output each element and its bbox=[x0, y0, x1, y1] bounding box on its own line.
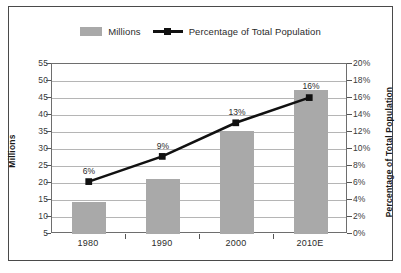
y-tick-label-right: 0% bbox=[353, 228, 383, 238]
y-tick-label-left: 30 bbox=[22, 143, 48, 153]
y-tick-label-left: 50 bbox=[22, 75, 48, 85]
y-tick-label-right: 18% bbox=[353, 75, 383, 85]
line-marker bbox=[306, 94, 313, 101]
x-tick-mark bbox=[125, 234, 126, 239]
y-tick-label-right: 12% bbox=[353, 126, 383, 136]
data-label: 13% bbox=[228, 107, 245, 117]
y-tick-label-right: 16% bbox=[353, 92, 383, 102]
y-tick-label-right: 8% bbox=[353, 160, 383, 170]
y-tick-mark-right bbox=[347, 63, 352, 64]
y-tick-label-left: 45 bbox=[22, 92, 48, 102]
y-tick-label-left: 5 bbox=[22, 228, 48, 238]
left-axis-title: Millions bbox=[7, 116, 17, 186]
data-label: 16% bbox=[302, 81, 319, 91]
y-tick-label-left: 40 bbox=[22, 109, 48, 119]
y-tick-label-right: 6% bbox=[353, 177, 383, 187]
x-tick-mark bbox=[273, 234, 274, 239]
y-tick-label-right: 4% bbox=[353, 194, 383, 204]
x-tick-mark bbox=[199, 234, 200, 239]
y-tick-label-left: 25 bbox=[22, 160, 48, 170]
chart-figure: Millions Percentage of Total Population … bbox=[0, 0, 401, 273]
y-tick-mark-right bbox=[347, 97, 352, 98]
y-tick-label-left: 55 bbox=[22, 58, 48, 68]
line-marker bbox=[159, 153, 166, 160]
right-axis-title: Percentage of Total Population bbox=[384, 77, 394, 227]
y-tick-label-left: 35 bbox=[22, 126, 48, 136]
y-tick-label-left: 20 bbox=[22, 177, 48, 187]
data-label: 6% bbox=[83, 166, 95, 176]
y-tick-mark-right bbox=[347, 216, 352, 217]
y-tick-label-right: 2% bbox=[353, 211, 383, 221]
y-tick-mark-right bbox=[347, 148, 352, 149]
y-tick-mark-right bbox=[347, 199, 352, 200]
y-tick-mark-right bbox=[347, 182, 352, 183]
y-tick-mark-left bbox=[46, 233, 51, 234]
line-marker bbox=[232, 119, 239, 126]
plot-area: 6%9%13%16% bbox=[51, 63, 347, 233]
x-tick-label: 1980 bbox=[78, 238, 99, 248]
y-tick-label-left: 15 bbox=[22, 194, 48, 204]
y-tick-label-right: 10% bbox=[353, 143, 383, 153]
x-tick-label: 2000 bbox=[226, 238, 247, 248]
y-tick-label-right: 20% bbox=[353, 58, 383, 68]
y-tick-mark-right bbox=[347, 80, 352, 81]
y-tick-mark-right bbox=[347, 233, 352, 234]
y-tick-label-right: 14% bbox=[353, 109, 383, 119]
y-tick-label-left: 10 bbox=[22, 211, 48, 221]
data-label: 9% bbox=[157, 141, 169, 151]
line-marker bbox=[85, 178, 92, 185]
x-tick-label: 1990 bbox=[152, 238, 173, 248]
y-tick-mark-right bbox=[347, 131, 352, 132]
y-tick-mark-right bbox=[347, 165, 352, 166]
y-tick-mark-right bbox=[347, 114, 352, 115]
x-tick-label: 2010E bbox=[296, 238, 323, 248]
